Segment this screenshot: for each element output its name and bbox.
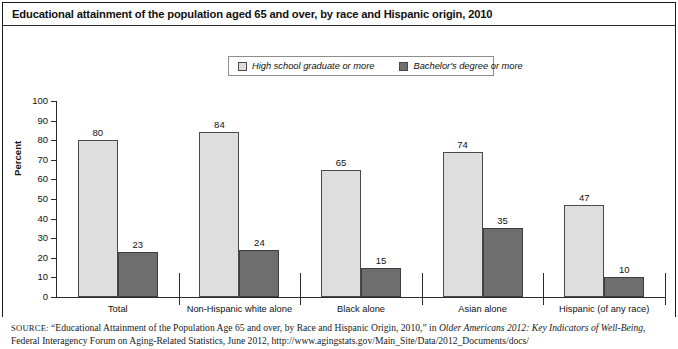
y-axis-tick-label: 90 [37,115,48,126]
bar-high-school: 84 [199,132,239,297]
bar-group: 6515 [300,101,422,297]
plot-area: 01020304050607080901008023Total8424Non-H… [57,101,665,297]
y-axis-tick-label: 20 [37,252,48,263]
bar-bachelors: 10 [604,277,644,297]
y-axis-tick: 0 [51,297,56,298]
source-note: SOURCE: “Educational Attainment of the P… [11,322,671,346]
bar-value-label: 80 [93,127,104,138]
y-axis-tick-label: 30 [37,232,48,243]
x-axis-category-label: Non-Hispanic white alone [187,304,292,314]
bar-high-school: 47 [564,205,604,297]
bar-value-label: 74 [457,139,468,150]
y-axis-tick-label: 40 [37,213,48,224]
bar-value-label: 84 [214,119,225,130]
bar-value-label: 15 [376,255,387,266]
legend-item-high-school: High school graduate or more [238,61,374,71]
source-italic-title: Older Americans 2012: Key Indicators of [439,322,598,333]
bar-bachelors: 24 [239,250,279,297]
y-axis-tick-label: 80 [37,134,48,145]
chart-figure: Educational attainment of the population… [0,0,678,349]
y-axis-tick: 80 [51,140,56,141]
y-axis-tick-label: 70 [37,154,48,165]
y-axis-tick: 40 [51,219,56,220]
x-axis-line [56,297,665,298]
bar-group: 4710 [543,101,665,297]
y-axis-tick: 10 [51,277,56,278]
legend-label-high-school: High school graduate or more [252,61,374,71]
y-axis-tick-label: 50 [37,193,48,204]
bar-value-label: 65 [336,157,347,168]
y-axis-tick: 60 [51,179,56,180]
bar-group: 8023 [57,101,179,297]
y-axis-tick: 30 [51,238,56,239]
bar-high-school: 74 [443,152,483,297]
legend-swatch-icon-high-school [238,62,247,71]
bar-bachelors: 15 [361,268,401,297]
x-axis-category-label: Black alone [337,304,385,314]
y-axis-tick: 70 [51,160,56,161]
figure-frame-top [2,2,676,3]
x-axis-category-label: Total [108,304,128,314]
group-separator [665,273,666,305]
page-title: Educational attainment of the population… [12,8,492,20]
x-axis-category-label: Hispanic (of any race) [559,304,649,314]
y-axis-tick: 100 [51,101,56,102]
bar-value-label: 23 [133,239,144,250]
y-axis-title: Percent [12,141,23,176]
y-axis-tick: 50 [51,199,56,200]
bar-value-label: 10 [619,264,630,275]
chart-legend: High school graduate or more Bachelor's … [228,56,494,76]
bar-high-school: 65 [321,170,361,297]
source-prefix: SOURCE: [11,323,49,333]
figure-frame-left [2,2,3,317]
y-axis-tick-label: 0 [43,291,48,302]
bar-high-school: 80 [78,140,118,297]
y-axis-tick-label: 10 [37,271,48,282]
y-axis-tick-label: 60 [37,173,48,184]
title-divider [3,25,675,26]
legend-swatch-icon-bachelors [399,62,408,71]
y-axis-tick: 90 [51,121,56,122]
bar-group: 8424 [179,101,301,297]
bar-value-label: 35 [497,215,508,226]
source-italic-subtitle: Well-Being [601,322,643,333]
legend-label-bachelors: Bachelor's degree or more [413,61,522,71]
bar-bachelors: 35 [483,228,523,297]
legend-item-bachelors: Bachelor's degree or more [399,61,522,71]
bar-bachelors: 23 [118,252,158,297]
bar-value-label: 24 [254,237,265,248]
bar-value-label: 47 [579,192,590,203]
y-axis-tick: 20 [51,258,56,259]
figure-frame-right [675,2,676,317]
bar-group: 7435 [422,101,544,297]
y-axis-tick-label: 100 [32,95,48,106]
x-axis-category-label: Asian alone [458,304,507,314]
source-text-a: “Educational Attainment of the Populatio… [49,322,439,333]
